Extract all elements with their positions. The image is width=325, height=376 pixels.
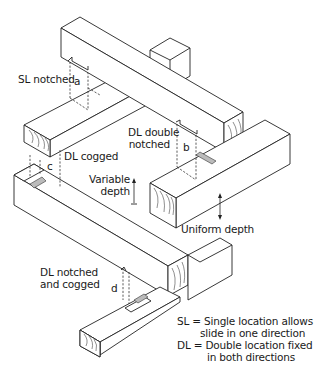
legend-dl-line1: DL = Double location fixed <box>177 339 312 351</box>
variable-depth-label-line1: Variable <box>86 173 130 185</box>
dl-notched-cogged-label-line2: and cogged <box>40 278 96 290</box>
dl-double-notched-label-line1: DL double <box>128 126 170 138</box>
dl-notched-cogged-label-line1: DL notched <box>40 266 96 278</box>
joint-a-label: a <box>74 75 80 87</box>
sl-notched-label: SL notched <box>18 73 75 85</box>
uniform-depth-label: Uniform depth <box>181 223 254 235</box>
variable-depth-label-line2: depth <box>86 185 130 197</box>
legend-sl-line2: slide in one direction <box>200 327 305 339</box>
bottom-right-beam <box>188 238 232 300</box>
joint-d-label: d <box>111 282 117 294</box>
legend-dl-line2: in both directions <box>207 351 295 363</box>
joint-b-label: b <box>183 141 189 153</box>
legend-sl-line1: SL = Single location allows <box>177 315 313 327</box>
joint-c-label: c <box>47 160 53 172</box>
dl-double-notched-label-line2: notched <box>128 138 170 150</box>
dl-cogged-label: DL cogged <box>64 150 118 162</box>
